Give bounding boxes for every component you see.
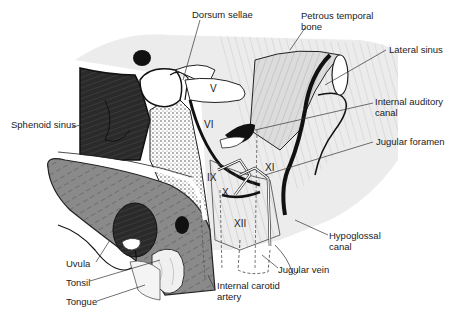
label-internal-carotid-artery: Internal carotid (217, 280, 280, 291)
sella-turcica (140, 69, 182, 107)
tongue-shape (130, 261, 160, 300)
label-hypoglossal-canal-2: canal (329, 241, 352, 252)
nerve-ix-label: IX (207, 172, 216, 183)
nerve-xii-label: XII (234, 218, 246, 229)
label-internal-carotid-artery-2: artery (217, 291, 241, 302)
nerve-x-label: X (222, 187, 229, 198)
label-sphenoid-sinus: Sphenoid sinus (11, 119, 76, 130)
label-jugular-vein: Jugular vein (278, 264, 329, 275)
nerve-v-label: V (210, 83, 217, 94)
label-tongue: Tongue (66, 296, 97, 307)
label-internal-auditory-canal-2: canal (375, 107, 398, 118)
nerve-xi-label: XI (265, 162, 274, 173)
label-hypoglossal-canal: Hypoglossal (329, 230, 381, 241)
label-lateral-sinus: Lateral sinus (389, 44, 443, 55)
label-petrous-temporal-bone: Petrous temporal (301, 10, 373, 21)
label-tonsil: Tonsil (66, 277, 90, 288)
label-dorsum-sellae: Dorsum sellae (192, 9, 253, 20)
label-uvula: Uvula (66, 258, 90, 269)
label-petrous-temporal-bone-2: bone (301, 21, 322, 32)
lateral-sinus-oval (332, 55, 348, 95)
label-internal-auditory-canal: Internal auditory (375, 96, 443, 107)
label-jugular-foramen: Jugular foramen (376, 136, 445, 147)
nerve-vi-label: VI (204, 119, 213, 130)
